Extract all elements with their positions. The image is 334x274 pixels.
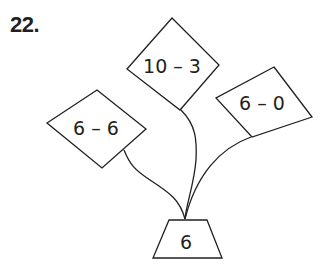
number-tree-diagram: 10 – 3 6 – 0 6 – 6 6 [0, 0, 334, 274]
leaf-right-expression: 6 – 0 [239, 92, 285, 114]
stem-top [181, 110, 196, 219]
leaf-top-expression: 10 – 3 [143, 55, 201, 77]
pot-value: 6 [180, 231, 192, 253]
stem-left [124, 150, 185, 219]
leaf-left-expression: 6 – 6 [73, 117, 119, 139]
stem-right [185, 137, 251, 219]
